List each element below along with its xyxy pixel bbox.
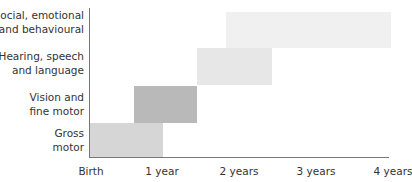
y-label-line: motor: [52, 140, 84, 154]
y-label-gross-motor: Gross motor: [52, 126, 84, 154]
bar-hearing-speech: [197, 48, 272, 85]
y-label-line: Hearing, speech: [0, 49, 84, 63]
x-tick-birth: Birth: [78, 165, 103, 177]
y-label-line: Social, emotional: [0, 8, 84, 22]
y-label-line: Vision and: [29, 90, 84, 104]
y-label-line: Gross: [52, 126, 84, 140]
y-label-vision-fine-motor: Vision and fine motor: [29, 90, 84, 118]
x-tick-3-years: 3 years: [297, 165, 336, 177]
x-tick-2-years: 2 years: [220, 165, 259, 177]
x-tick-4-years: 4 years: [374, 165, 412, 177]
x-tick-1-year: 1 year: [145, 165, 178, 177]
bar-vision-fine-motor: [134, 86, 197, 123]
y-label-line: and behavioural: [0, 22, 84, 36]
bar-gross-motor: [90, 123, 163, 157]
y-label-line: and language: [0, 63, 84, 77]
y-axis-line: [89, 8, 90, 158]
y-label-line: fine motor: [29, 104, 84, 118]
bar-social-emotional: [226, 12, 391, 48]
y-label-social-emotional: Social, emotional and behavioural: [0, 8, 84, 36]
y-label-hearing-speech: Hearing, speech and language: [0, 49, 84, 77]
x-axis-line: [89, 157, 389, 158]
